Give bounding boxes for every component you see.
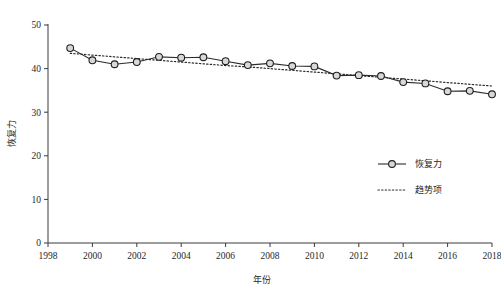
y-axis-ticks: 01020304050	[32, 20, 49, 248]
data-point-marker	[355, 72, 362, 79]
data-point-marker	[67, 45, 74, 52]
y-tick-label: 20	[32, 151, 42, 161]
resilience-polyline	[70, 48, 492, 94]
resilience-line-chart: 01020304050 1998200020022004200620082010…	[0, 0, 501, 299]
legend-label-trend: 趋势项	[415, 184, 442, 195]
x-tick-label: 1998	[39, 251, 58, 261]
x-axis-title: 年份	[253, 274, 271, 285]
x-axis-ticks: 1998200020022004200620082010201220142016…	[39, 243, 501, 261]
data-point-marker	[400, 79, 407, 86]
data-point-marker	[222, 58, 229, 65]
x-tick-label: 2008	[261, 251, 280, 261]
data-point-marker	[178, 54, 185, 61]
legend-label-resilience: 恢复力	[415, 158, 442, 169]
data-point-marker	[133, 59, 140, 66]
x-tick-label: 2000	[83, 251, 102, 261]
data-point-markers	[67, 45, 496, 98]
trend-series	[70, 53, 492, 86]
x-tick-label: 2010	[305, 251, 324, 261]
chart-canvas: 01020304050 1998200020022004200620082010…	[0, 0, 501, 299]
y-tick-label: 40	[32, 64, 42, 74]
x-tick-label: 2012	[349, 251, 368, 261]
data-point-marker	[489, 91, 496, 98]
data-point-marker	[333, 72, 340, 79]
data-point-marker	[311, 63, 318, 70]
data-point-marker	[378, 73, 385, 80]
x-tick-label: 2016	[438, 251, 457, 261]
data-point-marker	[422, 80, 429, 87]
x-tick-label: 2004	[172, 251, 191, 261]
data-point-marker	[244, 62, 251, 69]
x-tick-label: 2018	[483, 251, 501, 261]
data-point-marker	[466, 87, 473, 94]
data-point-marker	[89, 57, 96, 64]
x-tick-label: 2014	[394, 251, 413, 261]
data-point-marker	[111, 61, 118, 68]
x-tick-label: 2006	[216, 251, 235, 261]
data-point-marker	[289, 63, 296, 70]
y-tick-label: 30	[32, 108, 42, 118]
data-point-marker	[200, 54, 207, 61]
y-axis-title: 恢复力	[6, 120, 17, 147]
resilience-series	[70, 48, 492, 94]
y-tick-label: 10	[32, 195, 42, 205]
x-tick-label: 2002	[127, 251, 146, 261]
data-point-marker	[444, 88, 451, 95]
chart-legend: 恢复力趋势项	[378, 158, 442, 195]
data-point-marker	[267, 60, 274, 67]
y-tick-label: 0	[36, 238, 41, 248]
legend-marker-resilience	[389, 161, 396, 168]
y-tick-label: 50	[32, 20, 42, 30]
trend-polyline	[70, 53, 492, 86]
data-point-marker	[156, 53, 163, 60]
